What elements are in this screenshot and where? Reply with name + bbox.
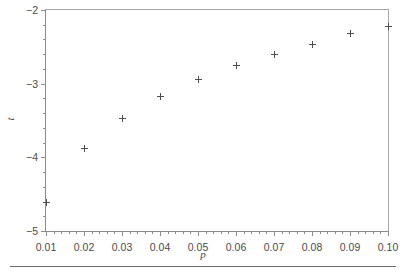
x-axis-minor-tick (289, 231, 290, 234)
figure-container: −2−3−4−50.010.020.030.040.050.060.070.08… (0, 0, 406, 275)
x-axis-tick (198, 231, 199, 236)
data-point-marker (157, 93, 164, 100)
x-axis-minor-tick (137, 231, 138, 234)
data-point-marker (43, 199, 50, 206)
x-axis-minor-tick (380, 231, 381, 234)
x-axis-tick (388, 231, 389, 236)
y-axis-tick-label: −5 (13, 226, 38, 237)
x-axis-minor-tick (54, 231, 55, 234)
y-axis-minor-tick (43, 39, 46, 40)
data-point-marker (119, 115, 126, 122)
y-axis-minor-tick (43, 69, 46, 70)
x-axis-tick (84, 231, 85, 236)
data-point-marker (195, 76, 202, 83)
y-axis-tick-label: −2 (13, 5, 38, 16)
x-axis-minor-tick (320, 231, 321, 234)
x-axis-minor-tick (228, 231, 229, 234)
x-axis-minor-tick (373, 231, 374, 234)
x-axis-minor-tick (152, 231, 153, 234)
y-axis-minor-tick (43, 128, 46, 129)
x-axis-tick (312, 231, 313, 236)
x-axis-minor-tick (107, 231, 108, 234)
x-axis-minor-tick (92, 231, 93, 234)
x-axis-tick (236, 231, 237, 236)
x-axis-minor-tick (221, 231, 222, 234)
x-axis-tick (350, 231, 351, 236)
x-axis-minor-tick (130, 231, 131, 234)
y-axis-minor-tick (43, 216, 46, 217)
x-axis-minor-tick (358, 231, 359, 234)
x-axis-tick (46, 231, 47, 236)
x-axis-minor-tick (69, 231, 70, 234)
x-axis-minor-tick (168, 231, 169, 234)
x-axis-tick (160, 231, 161, 236)
y-axis-tick (41, 10, 46, 11)
x-axis-minor-tick (335, 231, 336, 234)
data-point-marker (271, 51, 278, 58)
x-axis-minor-tick (76, 231, 77, 234)
x-axis-tick (274, 231, 275, 236)
x-axis-minor-tick (190, 231, 191, 234)
bottom-divider-rule (10, 266, 396, 267)
data-point-marker (309, 41, 316, 48)
y-axis-minor-tick (43, 187, 46, 188)
data-point-marker (385, 23, 392, 30)
x-axis-minor-tick (266, 231, 267, 234)
y-axis-tick-label: −4 (13, 152, 38, 163)
y-axis-tick (41, 157, 46, 158)
x-axis-minor-tick (213, 231, 214, 234)
x-axis-minor-tick (365, 231, 366, 234)
data-point-marker (81, 145, 88, 152)
x-axis-minor-tick (145, 231, 146, 234)
x-axis-title: p (0, 248, 406, 260)
y-axis-minor-tick (43, 172, 46, 173)
x-axis-minor-tick (259, 231, 260, 234)
x-axis-minor-tick (114, 231, 115, 234)
y-axis-minor-tick (43, 54, 46, 55)
y-axis-title: t (4, 117, 16, 120)
x-axis-minor-tick (297, 231, 298, 234)
x-axis-minor-tick (244, 231, 245, 234)
x-axis-minor-tick (251, 231, 252, 234)
x-axis-minor-tick (327, 231, 328, 234)
x-axis-minor-tick (282, 231, 283, 234)
y-axis-minor-tick (43, 143, 46, 144)
x-axis-minor-tick (99, 231, 100, 234)
data-point-marker (347, 30, 354, 37)
y-axis-minor-tick (43, 113, 46, 114)
x-axis-tick (122, 231, 123, 236)
plot-area: −2−3−4−50.010.020.030.040.050.060.070.08… (45, 9, 389, 232)
y-axis-minor-tick (43, 98, 46, 99)
x-axis-minor-tick (183, 231, 184, 234)
y-axis-tick-label: −3 (13, 79, 38, 90)
y-axis-minor-tick (43, 25, 46, 26)
x-axis-minor-tick (342, 231, 343, 234)
y-axis-tick (41, 84, 46, 85)
x-axis-minor-tick (304, 231, 305, 234)
x-axis-minor-tick (206, 231, 207, 234)
x-axis-minor-tick (61, 231, 62, 234)
x-axis-minor-tick (175, 231, 176, 234)
data-point-marker (233, 62, 240, 69)
